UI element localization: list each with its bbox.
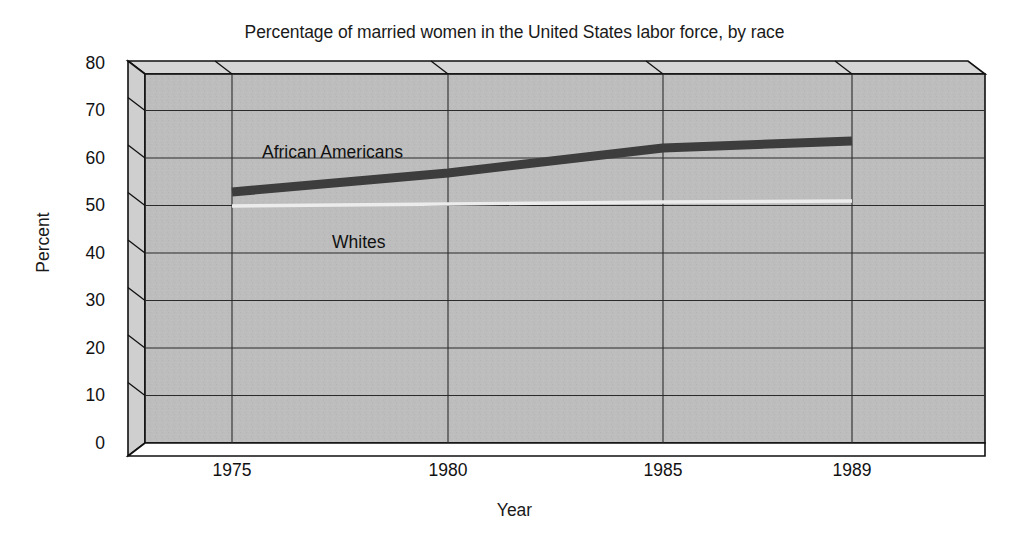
- series-annotation-african-americans: African Americans: [262, 142, 403, 163]
- series-annotation-whites: Whites: [332, 232, 385, 253]
- plot-area: [0, 0, 1029, 552]
- plot-left-wall: [128, 61, 145, 456]
- plot-top-face: [128, 61, 985, 74]
- plot-background: [145, 74, 985, 443]
- chart-figure: Percentage of married women in the Unite…: [0, 0, 1029, 552]
- plot-bottom-face: [128, 443, 985, 456]
